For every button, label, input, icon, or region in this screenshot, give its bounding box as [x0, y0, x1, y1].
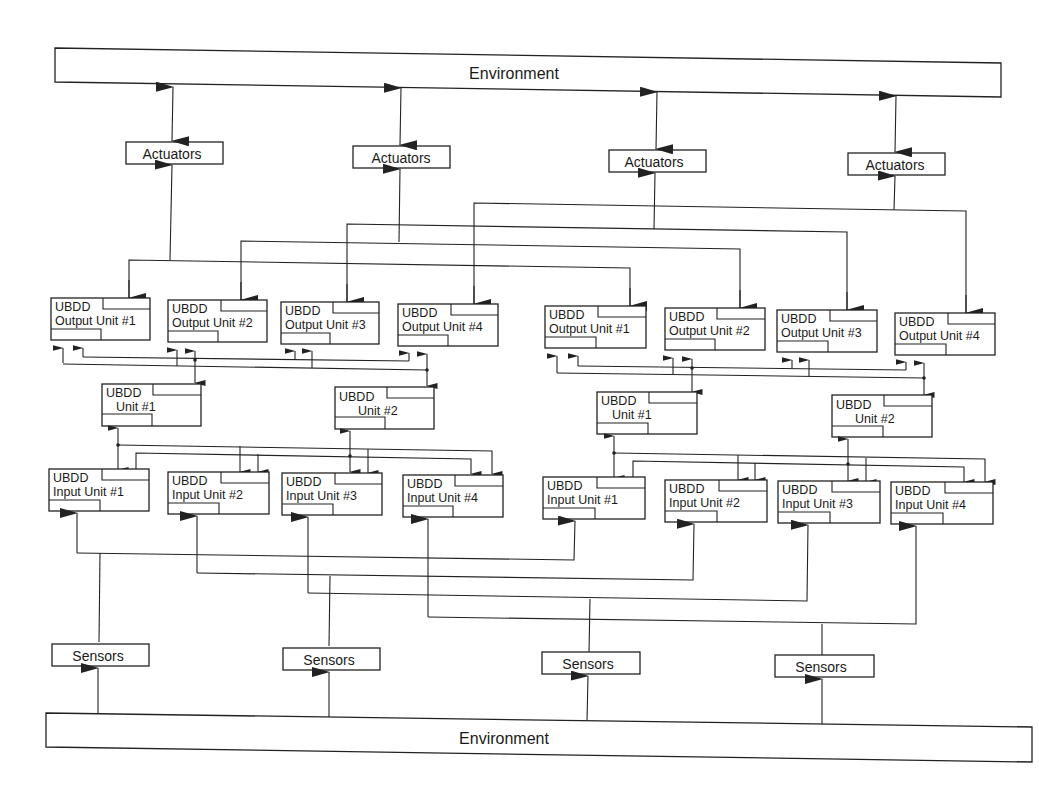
- unit-title: UBDD: [899, 315, 934, 329]
- bidirectional-arrow-icon: [400, 88, 401, 145]
- right-input-unit-3: UBDD Input Unit #3: [778, 481, 880, 523]
- left-input-unit-3: UBDD Input Unit #3: [282, 473, 382, 515]
- left-output-unit-2: UBDD Output Unit #2: [168, 300, 267, 342]
- unit-title: UBDD: [407, 477, 442, 491]
- bus-actuator-1: [129, 260, 630, 306]
- unit-title: UBDD: [601, 394, 636, 408]
- env-actuator-links: [172, 87, 896, 152]
- environment-top-label: Environment: [469, 65, 559, 82]
- unit-name: Input Unit #1: [53, 485, 124, 499]
- environment-bottom-label: Environment: [459, 730, 549, 747]
- unit-name: Output Unit #2: [172, 316, 253, 330]
- actuator-4-label: Actuators: [865, 157, 924, 173]
- arrow-up-icon: [654, 173, 655, 229]
- right-input-unit-1: UBDD Input Unit #1: [543, 477, 645, 519]
- unit-title: UBDD: [781, 312, 816, 326]
- actuator-3: Actuators: [609, 150, 706, 172]
- left-output-unit-4: UBDD Output Unit #4: [398, 304, 498, 346]
- unit-title: UBDD: [547, 479, 582, 493]
- right-input-unit-4: UBDD Input Unit #4: [891, 482, 993, 524]
- unit-name: Unit #1: [612, 408, 652, 422]
- sensor-3-label: Sensors: [562, 656, 613, 672]
- sensor-4-label: Sensors: [795, 659, 846, 675]
- actuator-2: Actuators: [353, 146, 450, 168]
- right-input-unit-2: UBDD Input Unit #2: [665, 480, 767, 522]
- unit-title: UBDD: [339, 390, 374, 404]
- unit-name: Output Unit #3: [285, 318, 366, 332]
- unit-title: UBDD: [53, 471, 88, 485]
- unit-name: Unit #2: [855, 412, 895, 426]
- unit-name: Output Unit #4: [402, 320, 483, 334]
- sensor-4: Sensors: [775, 655, 874, 677]
- environment-bottom: Environment: [46, 713, 1032, 762]
- unit-name: Input Unit #2: [669, 496, 740, 510]
- bus-actuator-4: [474, 203, 966, 313]
- unit-name: Output Unit #1: [55, 314, 136, 328]
- unit-title: UBDD: [286, 475, 321, 489]
- left-output-buses: [63, 348, 429, 386]
- right-output-unit-4: UBDD Output Unit #4: [895, 313, 995, 355]
- actuator-buses: [129, 165, 966, 313]
- actuator-2-label: Actuators: [371, 150, 430, 166]
- unit-title: UBDD: [402, 306, 437, 320]
- right-unit-2: UBDD Unit #2: [832, 395, 932, 437]
- left-unit-1: UBDD Unit #1: [102, 384, 201, 426]
- left-input-unit-4: UBDD Input Unit #4: [403, 475, 503, 517]
- left-input-buses: [116, 428, 492, 474]
- arrow-up-icon: [399, 169, 400, 242]
- sensor-3: Sensors: [542, 652, 640, 674]
- unit-title: UBDD: [669, 482, 704, 496]
- unit-title: UBDD: [106, 386, 141, 400]
- unit-title: UBDD: [549, 308, 584, 322]
- environment-top: Environment: [55, 48, 1001, 97]
- unit-name: Output Unit #3: [781, 326, 862, 340]
- unit-name: Input Unit #4: [407, 491, 478, 505]
- unit-name: Input Unit #1: [547, 493, 618, 507]
- left-unit-2: UBDD Unit #2: [335, 387, 434, 429]
- right-input-buses: [612, 436, 985, 482]
- arrow-up-icon: [894, 176, 895, 210]
- ubdd-architecture-diagram: Environment Actuators Actuators Actuator…: [0, 0, 1039, 810]
- sensor-buses: [77, 513, 916, 655]
- right-output-buses: [557, 356, 926, 395]
- actuator-4: Actuators: [848, 153, 945, 175]
- bidirectional-arrow-icon: [172, 87, 173, 141]
- sensor-2: Sensors: [283, 648, 380, 670]
- unit-title: UBDD: [782, 483, 817, 497]
- bidirectional-arrow-icon: [656, 92, 657, 149]
- left-input-unit-1: UBDD Input Unit #1: [49, 469, 149, 511]
- bus-actuator-2: [241, 241, 740, 308]
- bidirectional-arrow-icon: [895, 96, 896, 152]
- unit-name: Input Unit #4: [895, 498, 966, 512]
- unit-title: UBDD: [172, 302, 207, 316]
- unit-title: UBDD: [285, 304, 320, 318]
- right-output-unit-3: UBDD Output Unit #3: [777, 310, 877, 352]
- right-output-unit-2: UBDD Output Unit #2: [665, 308, 765, 350]
- unit-name: Input Unit #3: [286, 489, 357, 503]
- unit-name: Unit #1: [116, 400, 156, 414]
- unit-name: Unit #2: [358, 404, 398, 418]
- unit-name: Input Unit #3: [782, 497, 853, 511]
- left-input-unit-2: UBDD Input Unit #2: [168, 472, 269, 514]
- unit-title: UBDD: [895, 484, 930, 498]
- unit-name: Output Unit #1: [549, 322, 630, 336]
- arrow-up-icon: [170, 165, 172, 260]
- left-output-unit-1: UBDD Output Unit #1: [51, 298, 150, 340]
- unit-name: Output Unit #2: [669, 324, 750, 338]
- sensor-2-label: Sensors: [303, 652, 354, 668]
- sensor-1: Sensors: [52, 644, 149, 666]
- unit-title: UBDD: [172, 474, 207, 488]
- actuator-3-label: Actuators: [624, 154, 683, 170]
- unit-title: UBDD: [669, 310, 704, 324]
- right-unit-1: UBDD Unit #1: [597, 392, 697, 434]
- actuator-1: Actuators: [126, 142, 223, 164]
- right-output-unit-1: UBDD Output Unit #1: [545, 306, 646, 348]
- left-output-unit-3: UBDD Output Unit #3: [281, 302, 379, 344]
- actuator-1-label: Actuators: [142, 146, 201, 162]
- unit-title: UBDD: [55, 300, 90, 314]
- unit-name: Output Unit #4: [899, 329, 980, 343]
- sensor-1-label: Sensors: [72, 648, 123, 664]
- unit-title: UBDD: [836, 398, 871, 412]
- arrow-up-icon: [587, 676, 588, 721]
- unit-name: Input Unit #2: [172, 488, 243, 502]
